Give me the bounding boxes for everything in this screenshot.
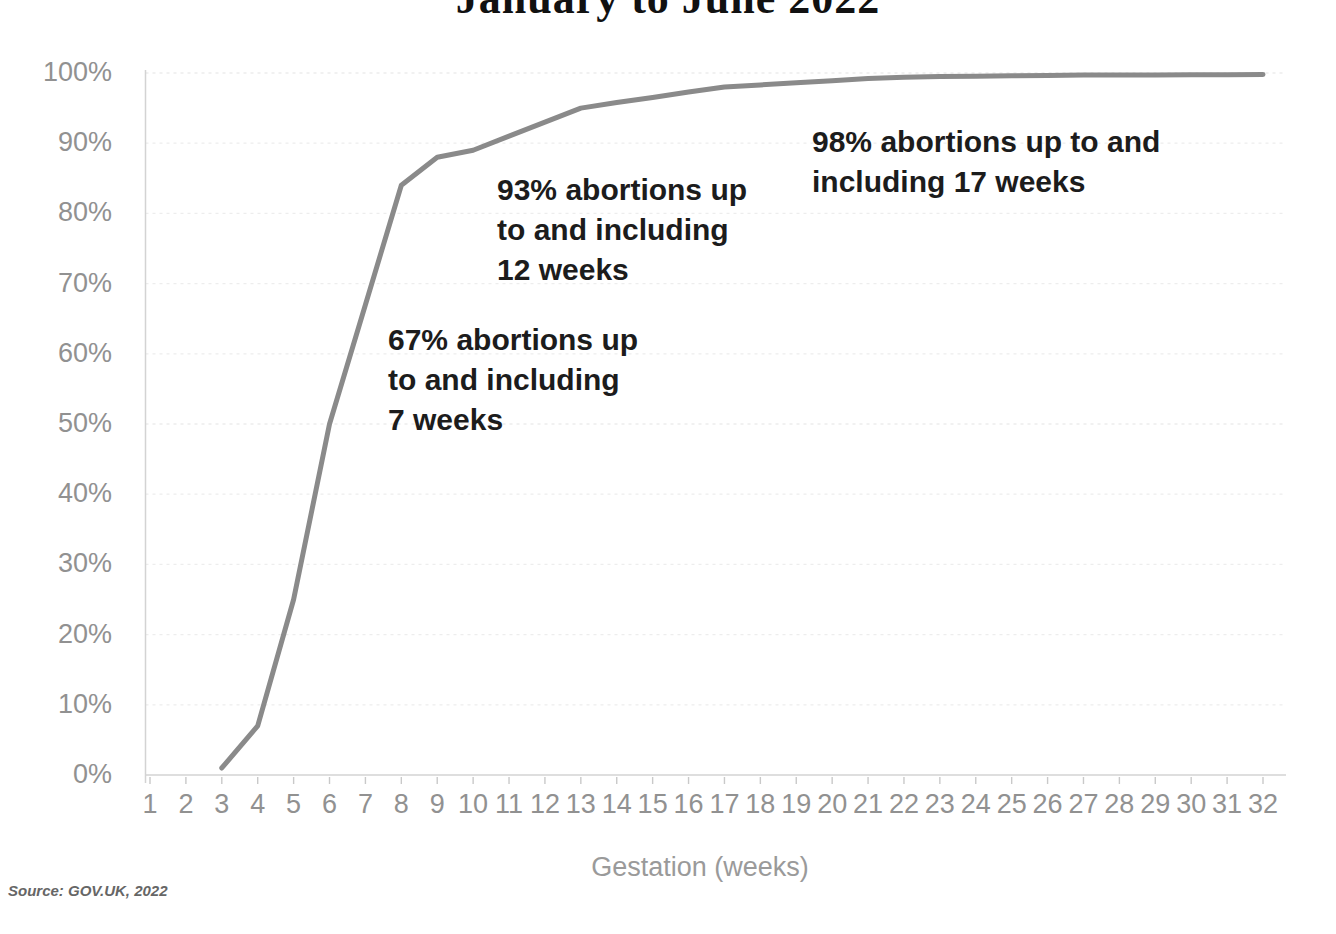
y-axis-tick-label: 50% bbox=[28, 408, 112, 439]
annotation-67-percent: 67% abortions up to and including 7 week… bbox=[388, 320, 638, 440]
y-axis-tick-label: 80% bbox=[28, 197, 112, 228]
annotation-93-percent: 93% abortions up to and including 12 wee… bbox=[497, 170, 747, 290]
annotation-line: 98% abortions up to and bbox=[812, 122, 1160, 162]
annotation-line: 7 weeks bbox=[388, 400, 638, 440]
annotation-line: 67% abortions up bbox=[388, 320, 638, 360]
y-axis-tick-label: 60% bbox=[28, 338, 112, 369]
annotation-line: to and including bbox=[497, 210, 747, 250]
annotation-line: 93% abortions up bbox=[497, 170, 747, 210]
plot-area: 0%10%20%30%40%50%60%70%80%90%100% 123456… bbox=[0, 0, 1336, 934]
chart-canvas: January to June 2022 0%10%20%30%40%50%60… bbox=[0, 0, 1336, 934]
annotation-line: including 17 weeks bbox=[812, 162, 1160, 202]
y-axis-tick-label: 20% bbox=[28, 619, 112, 650]
annotation-98-percent: 98% abortions up to and including 17 wee… bbox=[812, 122, 1160, 202]
x-axis-tick-label: 32 bbox=[1241, 789, 1285, 820]
annotation-line: 12 weeks bbox=[497, 250, 747, 290]
y-axis-tick-label: 100% bbox=[28, 57, 112, 88]
x-axis-title: Gestation (weeks) bbox=[130, 852, 1270, 883]
annotation-line: to and including bbox=[388, 360, 638, 400]
y-axis-tick-label: 90% bbox=[28, 127, 112, 158]
y-axis-tick-label: 0% bbox=[28, 759, 112, 790]
y-axis-tick-label: 10% bbox=[28, 689, 112, 720]
y-axis-tick-label: 70% bbox=[28, 268, 112, 299]
y-axis-tick-label: 40% bbox=[28, 478, 112, 509]
y-axis-tick-label: 30% bbox=[28, 548, 112, 579]
source-note: Source: GOV.UK, 2022 bbox=[8, 882, 168, 899]
